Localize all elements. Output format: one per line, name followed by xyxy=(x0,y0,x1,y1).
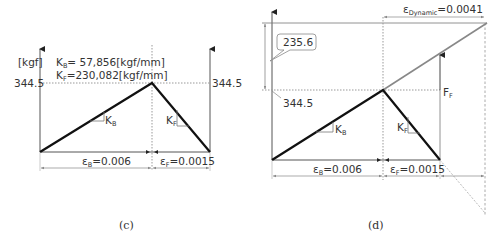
dynamic-extension-line xyxy=(383,23,487,90)
force-displacement-curve xyxy=(40,83,210,152)
value-leader xyxy=(272,91,281,98)
left-force-value: 344.5 xyxy=(14,77,44,89)
slope-b-label: KB xyxy=(335,123,346,137)
junction-arrow-right xyxy=(385,158,389,162)
eps-f-label: εF=0.0015 xyxy=(390,163,445,177)
eps-b-label: εB=0.006 xyxy=(82,155,131,169)
panel-d: 235.6 344.5 FF εDynamic=0.0041 KB KF εB=… xyxy=(262,3,487,232)
slope-f-label: KF xyxy=(166,114,177,128)
eps-f-label: εF=0.0015 xyxy=(160,155,215,169)
caption-c: (c) xyxy=(119,219,134,232)
unloading-extension-line xyxy=(440,160,485,213)
junction-arrow-left xyxy=(377,158,381,162)
slope-b-label: KB xyxy=(105,114,116,128)
left-force-value: 344.5 xyxy=(283,97,313,109)
right-force-value: 344.5 xyxy=(212,77,242,89)
diagram-canvas: [kgf] KB= 57,856[kgf/mm] KF=230,082[kgf/… xyxy=(0,0,498,239)
kf-stiffness-label: KF=230,082[kgf/mm] xyxy=(56,69,168,83)
eps-b-label: εB=0.006 xyxy=(313,163,362,177)
kb-stiffness-label: KB= 57,856[kgf/mm] xyxy=(56,56,165,70)
force-label: FF xyxy=(443,86,453,100)
eps-dynamic-label: εDynamic=0.0041 xyxy=(403,3,483,17)
callout-value: 235.6 xyxy=(283,36,313,48)
slope-f-triangle xyxy=(408,117,420,133)
caption-d: (d) xyxy=(368,219,384,232)
panel-c: [kgf] KB= 57,856[kgf/mm] KF=230,082[kgf/… xyxy=(14,45,242,232)
junction-arrow-left xyxy=(146,150,150,154)
y-unit-label: [kgf] xyxy=(18,56,43,68)
junction-arrow-right xyxy=(154,150,158,154)
slope-f-label: KF xyxy=(397,121,408,135)
